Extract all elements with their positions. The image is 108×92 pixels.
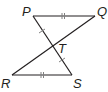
segment-qr (12, 16, 95, 75)
point-label-s: S (73, 76, 82, 91)
point-label-r: R (1, 76, 10, 91)
point-label-q: Q (97, 4, 107, 19)
point-label-p: P (22, 4, 31, 19)
tick-mark-ts (59, 58, 65, 62)
point-label-t: T (58, 41, 67, 56)
geometry-diagram: P Q R S T (0, 0, 108, 92)
